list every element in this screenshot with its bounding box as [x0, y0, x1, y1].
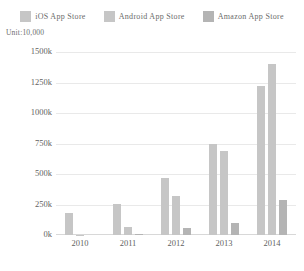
- y-axis-tick-label: 0k: [6, 230, 52, 239]
- bars: [104, 52, 152, 235]
- legend-item-amazon[interactable]: Amazon App Store: [203, 11, 284, 22]
- bar-group-2011: [104, 52, 152, 235]
- y-axis-tick-label: 750k: [6, 139, 52, 148]
- x-axis-tick-label: 2014: [248, 238, 296, 252]
- bar-group-2010: [56, 52, 104, 235]
- legend-swatch-android-icon: [104, 11, 115, 22]
- bar[interactable]: [279, 200, 287, 235]
- bar[interactable]: [124, 227, 132, 235]
- bars: [200, 52, 248, 235]
- legend-label-android: Android App Store: [119, 12, 185, 21]
- bars: [56, 52, 104, 235]
- bar[interactable]: [113, 204, 121, 235]
- plot-area: [56, 52, 296, 235]
- x-axis-tick-label: 2012: [152, 238, 200, 252]
- bar[interactable]: [183, 228, 191, 235]
- bars: [152, 52, 200, 235]
- x-axis-tick-label: 2010: [56, 238, 104, 252]
- bar[interactable]: [172, 196, 180, 235]
- bar-group-2012: [152, 52, 200, 235]
- bar-group-2013: [200, 52, 248, 235]
- x-axis-tick-label: 2011: [104, 238, 152, 252]
- y-axis-tick-label: 1250k: [6, 78, 52, 87]
- y-axis-tick-label: 1500k: [6, 47, 52, 56]
- legend-item-ios[interactable]: iOS App Store: [20, 11, 86, 22]
- bars: [248, 52, 296, 235]
- x-axis-tick-label: 2013: [200, 238, 248, 252]
- chart-legend: iOS App Store Android App Store Amazon A…: [0, 8, 304, 24]
- app-store-bar-chart: iOS App Store Android App Store Amazon A…: [0, 0, 304, 271]
- bar[interactable]: [268, 64, 276, 235]
- bar[interactable]: [220, 151, 228, 235]
- bar[interactable]: [257, 86, 265, 235]
- bar[interactable]: [65, 213, 73, 235]
- legend-label-ios: iOS App Store: [35, 12, 86, 21]
- legend-item-android[interactable]: Android App Store: [104, 11, 185, 22]
- x-axis-tick-labels: 20102011201220132014: [56, 238, 296, 252]
- bar[interactable]: [135, 234, 143, 235]
- legend-swatch-amazon-icon: [203, 11, 214, 22]
- legend-swatch-ios-icon: [20, 11, 31, 22]
- bar-groups: [56, 52, 296, 235]
- bar[interactable]: [161, 178, 169, 235]
- y-axis-tick-label: 500k: [6, 169, 52, 178]
- unit-caption: Unit:10,000: [6, 28, 44, 37]
- y-axis-tick-label: 1000k: [6, 108, 52, 117]
- bar[interactable]: [231, 223, 239, 235]
- y-axis-tick-label: 250k: [6, 200, 52, 209]
- legend-label-amazon: Amazon App Store: [218, 12, 284, 21]
- bar[interactable]: [209, 144, 217, 235]
- bar-group-2014: [248, 52, 296, 235]
